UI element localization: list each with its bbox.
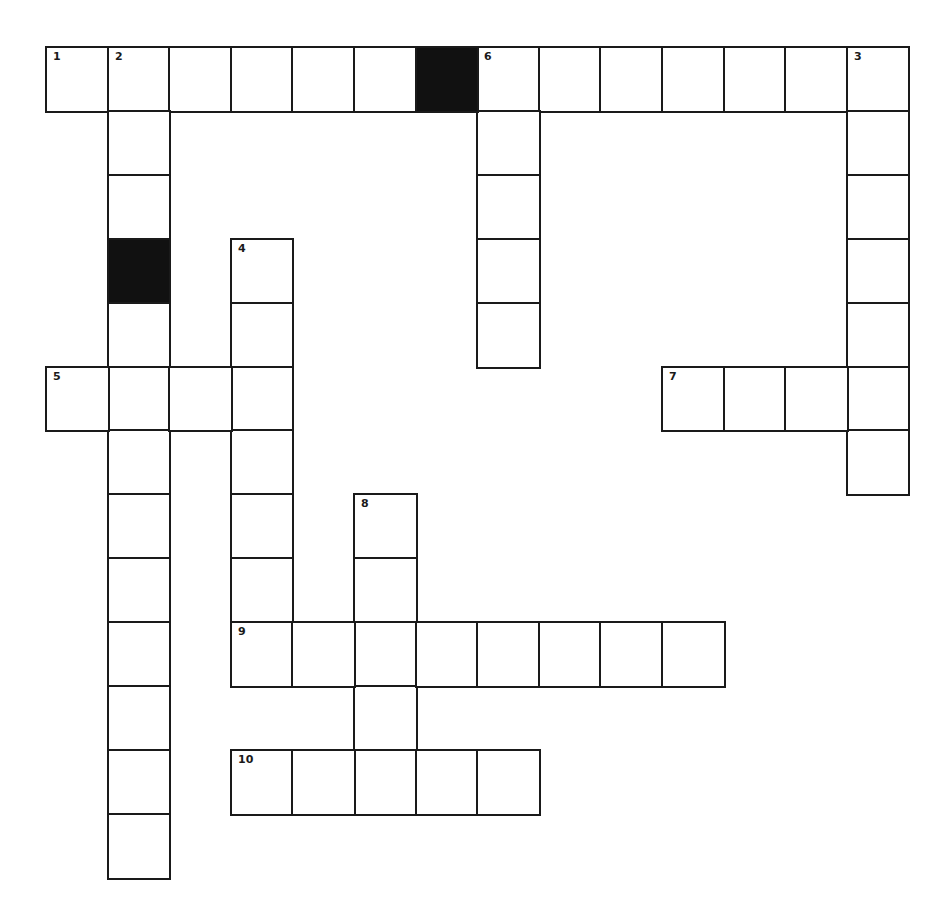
grid-cell[interactable] [353,46,418,113]
grid-cell[interactable] [476,174,541,241]
grid-cell[interactable] [723,46,787,113]
letter-input[interactable] [293,48,354,111]
grid-cell[interactable] [107,749,171,816]
letter-input[interactable] [355,751,416,814]
grid-cell[interactable]: 9 [230,621,294,688]
grid-cell[interactable]: 7 [661,366,726,432]
grid-cell[interactable] [107,429,171,496]
grid-cell[interactable] [784,46,849,113]
letter-input[interactable] [109,559,169,622]
letter-input[interactable] [232,495,292,558]
grid-cell[interactable] [353,621,418,688]
grid-cell[interactable] [476,749,541,816]
grid-cell[interactable] [230,429,294,496]
letter-input[interactable] [355,623,416,686]
letter-input[interactable] [478,176,539,239]
grid-cell[interactable] [107,302,171,369]
grid-cell[interactable] [107,813,171,880]
letter-input[interactable] [417,623,477,686]
letter-input[interactable] [232,304,292,367]
letter-input[interactable] [293,623,354,686]
letter-input[interactable] [47,368,108,430]
letter-input[interactable] [109,687,169,750]
grid-cell[interactable]: 5 [45,366,110,432]
letter-input[interactable] [848,304,908,367]
letter-input[interactable] [786,48,847,111]
grid-cell[interactable]: 8 [353,493,418,560]
letter-input[interactable] [109,112,169,175]
letter-input[interactable] [478,623,539,686]
letter-input[interactable] [355,687,416,750]
grid-cell[interactable] [846,238,910,305]
grid-cell[interactable] [107,557,171,624]
letter-input[interactable] [478,48,539,111]
letter-input[interactable] [355,48,416,111]
letter-input[interactable] [663,623,724,686]
letter-input[interactable] [848,176,908,239]
letter-input[interactable] [109,751,169,814]
letter-input[interactable] [232,48,292,111]
grid-cell[interactable] [846,366,910,432]
letter-input[interactable] [540,48,600,111]
grid-cell[interactable] [538,46,602,113]
letter-input[interactable] [232,240,292,303]
grid-cell[interactable] [107,110,171,177]
grid-cell[interactable] [291,46,356,113]
letter-input[interactable] [109,431,169,494]
grid-cell[interactable] [230,366,294,432]
grid-cell[interactable] [353,685,418,752]
grid-cell[interactable]: 6 [476,46,541,113]
grid-cell[interactable] [291,621,356,688]
grid-cell[interactable] [230,493,294,560]
grid-cell[interactable] [353,557,418,624]
letter-input[interactable] [478,751,539,814]
letter-input[interactable] [725,368,785,430]
grid-cell[interactable] [599,621,664,688]
letter-input[interactable] [478,112,539,175]
letter-input[interactable] [232,559,292,622]
letter-input[interactable] [848,240,908,303]
letter-input[interactable] [478,240,539,303]
grid-cell[interactable] [107,174,171,241]
grid-cell[interactable] [476,302,541,369]
grid-cell[interactable] [846,174,910,241]
grid-cell[interactable] [661,46,726,113]
letter-input[interactable] [109,368,169,430]
grid-cell[interactable] [476,238,541,305]
grid-cell[interactable] [599,46,664,113]
grid-cell[interactable]: 2 [107,46,171,113]
letter-input[interactable] [109,495,169,558]
grid-cell[interactable]: 10 [230,749,294,816]
grid-cell[interactable] [476,621,541,688]
letter-input[interactable] [109,623,169,686]
grid-cell[interactable]: 3 [846,46,910,113]
letter-input[interactable] [109,815,169,878]
letter-input[interactable] [232,431,292,494]
letter-input[interactable] [109,48,169,111]
grid-cell[interactable] [353,749,418,816]
letter-input[interactable] [663,368,724,430]
grid-cell[interactable] [168,366,233,432]
grid-cell[interactable] [230,46,294,113]
letter-input[interactable] [601,623,662,686]
grid-cell[interactable] [538,621,602,688]
grid-cell[interactable] [168,46,233,113]
letter-input[interactable] [232,751,292,814]
letter-input[interactable] [540,623,600,686]
letter-input[interactable] [848,368,908,430]
grid-cell[interactable]: 1 [45,46,110,113]
letter-input[interactable] [232,623,292,686]
letter-input[interactable] [355,559,416,622]
letter-input[interactable] [478,304,539,367]
grid-cell[interactable] [846,429,910,496]
letter-input[interactable] [47,48,108,111]
letter-input[interactable] [663,48,724,111]
grid-cell[interactable] [230,302,294,369]
letter-input[interactable] [170,48,231,111]
letter-input[interactable] [170,368,231,430]
grid-cell[interactable] [846,302,910,369]
grid-cell[interactable] [291,749,356,816]
grid-cell[interactable] [107,621,171,688]
grid-cell[interactable] [476,110,541,177]
grid-cell[interactable]: 4 [230,238,294,305]
